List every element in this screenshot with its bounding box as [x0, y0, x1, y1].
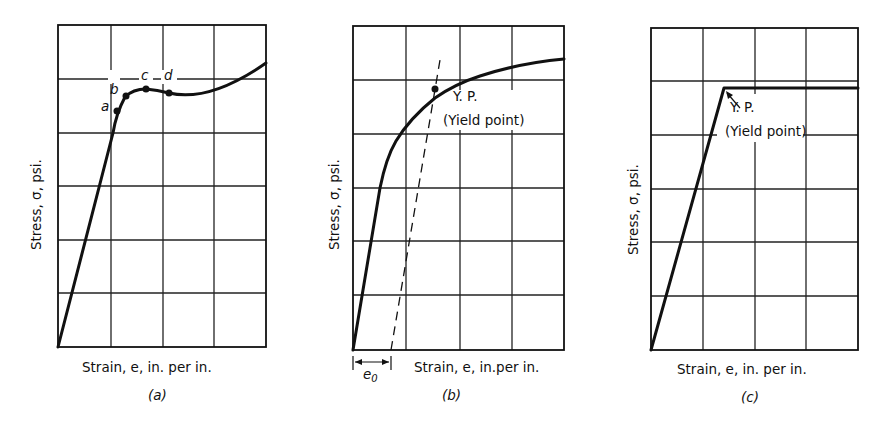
panel-b: Y. P. (Yield point) e0 Stress, σ, psi. S… — [326, 26, 564, 403]
point-a-marker — [114, 108, 121, 115]
panel-b-caption: (b) — [442, 387, 461, 403]
e0-label: e0 — [363, 366, 378, 384]
panel-c-y-axis-label: Stress, σ, psi. — [625, 164, 641, 255]
panel-c-grid — [651, 28, 858, 350]
panel-a-y-axis-label: Stress, σ, psi. — [28, 159, 44, 250]
panel-a-x-axis-label: Strain, e, in. per in. — [82, 359, 212, 375]
point-d-label: d — [164, 67, 173, 83]
panel-c-caption: (c) — [741, 389, 759, 405]
panel-b-yield-point-label: (Yield point) — [443, 112, 524, 128]
stress-strain-figure: a b c d Stress, σ, psi. Strain, e, in. p… — [0, 0, 880, 426]
panel-b-y-axis-label: Stress, σ, psi. — [326, 159, 342, 250]
arrow-left-icon — [355, 359, 362, 365]
point-b-marker — [123, 93, 130, 100]
point-d-marker — [166, 90, 173, 97]
arrow-right-icon — [382, 359, 389, 365]
panel-c: Y. P. (Yield point) Stress, σ, psi. Stra… — [625, 28, 858, 405]
panel-c-yield-point-label: (Yield point) — [725, 123, 806, 139]
panel-b-grid — [353, 26, 564, 350]
point-b-label: b — [110, 81, 119, 97]
panel-a-caption: (a) — [148, 387, 167, 403]
panel-b-x-axis-label: Strain, e, in.per in. — [414, 359, 539, 375]
panel-c-yp-label: Y. P. — [729, 99, 754, 115]
point-a-label: a — [101, 98, 109, 114]
point-c-marker — [143, 86, 150, 93]
panel-c-x-axis-label: Strain, e, in. per in. — [677, 361, 807, 377]
panel-b-yp-label: Y. P. — [452, 88, 477, 104]
panel-a-curve — [58, 63, 266, 347]
point-c-label: c — [141, 67, 149, 83]
panel-b-offset-line — [391, 60, 440, 350]
panel-a: a b c d Stress, σ, psi. Strain, e, in. p… — [28, 25, 266, 403]
yield-point-marker — [432, 86, 439, 93]
